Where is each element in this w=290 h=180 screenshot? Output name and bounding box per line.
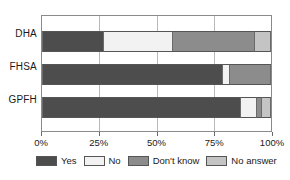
table-row — [42, 31, 271, 52]
x-tick-label: 75% — [205, 137, 224, 148]
table-row — [42, 64, 271, 85]
bar-segment — [223, 64, 230, 85]
legend-swatch-no — [84, 156, 105, 166]
x-tick-label: 50% — [147, 137, 166, 148]
bar-segment — [173, 31, 255, 52]
category-label-gpfh: GPFH — [0, 94, 37, 105]
bar-segment — [230, 64, 271, 85]
legend-item-no: No — [84, 155, 121, 166]
category-label-fhsa: FHSA — [0, 61, 37, 72]
stacked-bar-chart: DHA FHSA GPFH 0%25%50%75%100% Yes No Don… — [0, 0, 290, 180]
legend-item-dont-know: Don't know — [128, 155, 200, 166]
legend-swatch-no-answer — [206, 156, 227, 166]
category-label-dha: DHA — [0, 28, 37, 39]
x-tick-label: 25% — [89, 137, 108, 148]
legend-item-no-answer: No answer — [206, 155, 276, 166]
bar-segment — [104, 31, 173, 52]
x-tick-mark — [41, 132, 42, 136]
legend-label-no-answer: No answer — [231, 155, 276, 166]
bar-segment — [42, 64, 223, 85]
legend: Yes No Don't know No answer — [36, 155, 277, 166]
x-tick-mark — [272, 132, 273, 136]
bar-segment — [241, 97, 257, 118]
legend-label-yes: Yes — [61, 155, 77, 166]
x-tick-label: 100% — [260, 137, 284, 148]
x-tick-label: 0% — [34, 137, 48, 148]
bar-segment — [255, 31, 271, 52]
legend-swatch-yes — [36, 156, 57, 166]
legend-item-yes: Yes — [36, 155, 77, 166]
bar-segment — [42, 97, 241, 118]
x-axis: 0%25%50%75%100% — [41, 132, 272, 150]
legend-label-no: No — [109, 155, 121, 166]
table-row — [42, 97, 271, 118]
bars-layer — [42, 16, 271, 131]
bar-segment — [262, 97, 271, 118]
x-tick-mark — [157, 132, 158, 136]
legend-label-dont-know: Don't know — [153, 155, 200, 166]
x-tick-mark — [214, 132, 215, 136]
bar-segment — [42, 31, 104, 52]
x-tick-mark — [99, 132, 100, 136]
plot-area — [41, 15, 272, 132]
legend-swatch-dont-know — [128, 156, 149, 166]
